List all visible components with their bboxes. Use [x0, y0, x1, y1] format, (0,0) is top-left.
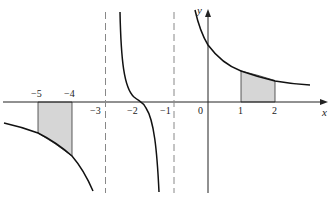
tick-label-neg3: −3	[90, 105, 101, 116]
shaded-region-1-to-2	[241, 71, 275, 102]
tick-label-neg5: −5	[31, 88, 42, 99]
y-axis-arrow-icon	[205, 9, 211, 17]
tick-label-neg1: −1	[160, 105, 171, 116]
tick-label-1: 1	[238, 105, 243, 116]
tick-label-0: 0	[198, 105, 203, 116]
tick-label-2: 2	[272, 105, 277, 116]
tick-label-neg4: −4	[64, 88, 75, 99]
x-axis-arrow-icon	[320, 99, 328, 105]
x-axis-label: x	[321, 106, 327, 118]
shaded-region-neg5-to-neg4	[38, 102, 72, 156]
tick-label-neg2: −2	[127, 105, 138, 116]
y-axis-label: y	[196, 4, 202, 16]
function-graph: −5 −4 −3 −2 −1 0 1 2 x y	[0, 0, 333, 203]
